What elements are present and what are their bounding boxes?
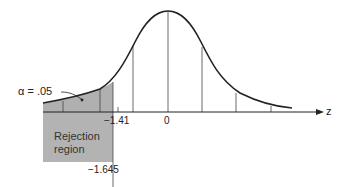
normal-distribution-diagram: α = .05 Rejection region −1.41 0 −1.645 … xyxy=(0,0,344,187)
rejection-label-line1: Rejection xyxy=(54,130,100,142)
alpha-label: α = .05 xyxy=(18,85,52,97)
tick-label-zero: 0 xyxy=(164,115,170,126)
density-curve xyxy=(43,11,292,108)
critical-value-label: −1.645 xyxy=(88,164,119,175)
rejection-label-line2: region xyxy=(54,143,85,155)
tick-label-neg141: −1.41 xyxy=(104,115,129,126)
axis-label-z: z xyxy=(326,105,332,117)
axis-arrow-icon xyxy=(316,109,324,115)
